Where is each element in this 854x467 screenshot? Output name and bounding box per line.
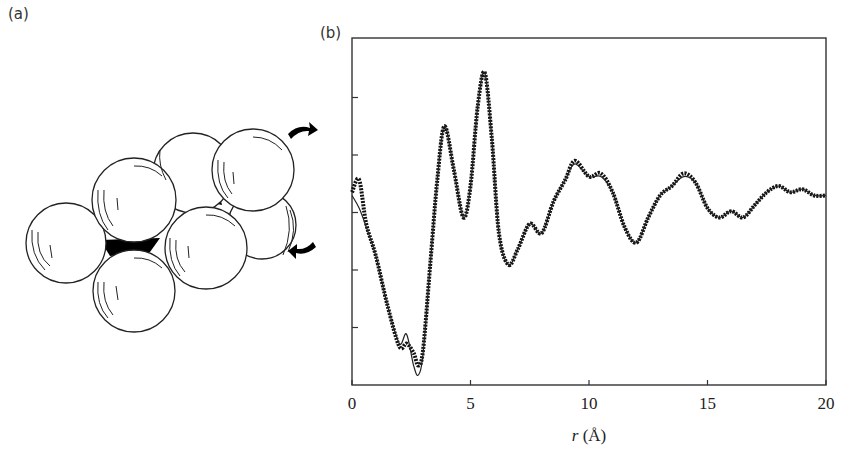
x-tick-label: 0: [348, 394, 357, 414]
y-axis-ticks: [352, 98, 358, 328]
pdf-chart: [0, 0, 854, 467]
x-tick-label: 15: [699, 394, 716, 414]
x-axis-unit: (Å): [583, 426, 607, 445]
x-tick-label: 10: [581, 394, 598, 414]
x-axis-title: r (Å): [572, 426, 606, 446]
x-tick-label: 20: [818, 394, 835, 414]
x-axis-variable: r: [572, 426, 579, 445]
x-tick-label: 5: [466, 394, 475, 414]
experimental-points-series: [352, 72, 826, 366]
x-axis-ticks: [352, 380, 826, 385]
plot-frame: [352, 38, 826, 385]
series-layer: [352, 72, 826, 376]
model-line-series: [352, 72, 826, 376]
